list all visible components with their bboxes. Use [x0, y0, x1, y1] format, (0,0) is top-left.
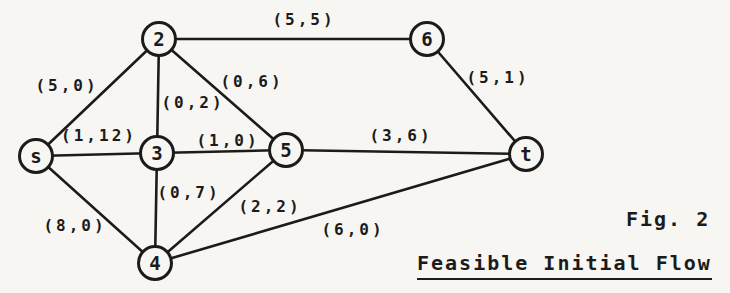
edge-label-s-4: (8,0)	[43, 218, 106, 234]
edge-label-2-3: (0,2)	[161, 95, 224, 111]
figure-canvas: 26s35t4 (5,0)(1,12)(8,0)(0,2)(0,6)(5,5)(…	[0, 0, 730, 293]
node-t: t	[508, 136, 544, 172]
edge-layer	[0, 0, 730, 293]
edge-4-t	[155, 154, 526, 263]
edge-5-t	[286, 150, 526, 154]
figure-title: Feasible Initial Flow	[417, 251, 712, 280]
edge-label-s-2: (5,0)	[35, 78, 98, 94]
edge-6-t	[427, 39, 526, 154]
edge-label-2-5: (0,6)	[220, 74, 283, 90]
edge-label-4-5: (2,2)	[238, 199, 301, 215]
figure-caption: Fig. 2	[626, 207, 710, 231]
edge-label-3-4: (0,7)	[157, 185, 220, 201]
edge-label-4-t: (6,0)	[321, 222, 384, 238]
node-s: s	[18, 138, 54, 174]
node-4: 4	[137, 245, 173, 281]
edge-s-4	[36, 156, 155, 263]
edge-3-5	[157, 150, 286, 153]
edge-label-5-t: (3,6)	[369, 128, 432, 144]
edge-label-s-3: (1,12)	[61, 128, 137, 144]
node-6: 6	[409, 21, 445, 57]
edge-label-2-6: (5,5)	[272, 12, 335, 28]
edge-label-6-t: (5,1)	[466, 70, 529, 86]
node-2: 2	[141, 21, 177, 57]
edge-label-3-5: (1,0)	[196, 133, 259, 149]
node-3: 3	[139, 135, 175, 171]
node-5: 5	[268, 132, 304, 168]
